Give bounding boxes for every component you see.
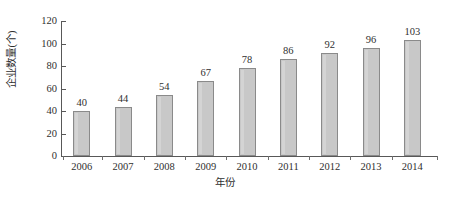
y-axis-tick-label: 60 xyxy=(47,82,58,95)
x-axis-tick-label: 2009 xyxy=(195,160,216,173)
bar-value-label: 40 xyxy=(76,97,87,109)
bar-chart: 企业数量(个) 020406080100120 4044546778869296… xyxy=(0,0,449,199)
bar xyxy=(115,107,132,157)
y-axis-tick-mark xyxy=(61,44,66,45)
y-axis-tick: 80 xyxy=(61,66,66,67)
plot-area: 020406080100120 4044546778869296103 xyxy=(61,21,433,156)
bar-highlight xyxy=(199,83,202,154)
x-axis-tick-label: 2012 xyxy=(319,160,340,173)
x-axis-tick-mark xyxy=(144,156,145,160)
y-axis-tick-mark xyxy=(61,134,66,135)
x-axis-end-tick xyxy=(63,156,64,160)
y-axis-tick-mark xyxy=(61,111,66,112)
y-axis-tick-label: 20 xyxy=(47,127,58,140)
x-axis-end-tick xyxy=(437,156,438,160)
y-axis-tick: 60 xyxy=(61,89,66,90)
x-axis-tick-mark xyxy=(226,156,227,160)
y-axis-tick-label: 40 xyxy=(47,104,58,117)
y-axis-tick: 120 xyxy=(61,21,66,22)
bar-value-label: 86 xyxy=(283,45,294,57)
bar-value-label: 78 xyxy=(242,54,253,66)
bar-group: 54 xyxy=(156,21,173,156)
x-axis-tick-mark xyxy=(268,156,269,160)
y-axis-tick-label: 80 xyxy=(47,59,58,72)
bar xyxy=(404,40,421,156)
y-axis-tick: 100 xyxy=(61,44,66,45)
bar-highlight xyxy=(365,50,368,154)
y-axis-tick-label: 120 xyxy=(41,14,57,27)
bar-highlight xyxy=(117,109,120,155)
bar xyxy=(156,95,173,156)
x-axis-tick-label: 2014 xyxy=(402,160,423,173)
bar xyxy=(239,68,256,156)
x-axis-line xyxy=(61,156,437,157)
x-axis-tick-mark xyxy=(350,156,351,160)
bar-group: 96 xyxy=(363,21,380,156)
x-axis-tick-label: 2008 xyxy=(154,160,175,173)
y-axis-tick-mark xyxy=(61,21,66,22)
bar-value-label: 103 xyxy=(404,26,420,38)
bar-highlight xyxy=(241,70,244,154)
x-axis-tick-label: 2010 xyxy=(237,160,258,173)
bar-highlight xyxy=(406,42,409,154)
x-axis-tick-label: 2013 xyxy=(361,160,382,173)
bar-group: 92 xyxy=(321,21,338,156)
x-axis-tick-label: 2007 xyxy=(113,160,134,173)
bar xyxy=(363,48,380,156)
y-axis-tick-mark xyxy=(61,66,66,67)
bar-value-label: 92 xyxy=(324,39,335,51)
bar-highlight xyxy=(282,61,285,154)
bar-group: 44 xyxy=(115,21,132,156)
y-axis-tick: 40 xyxy=(61,111,66,112)
x-axis-tick-mark xyxy=(309,156,310,160)
x-axis-tick-mark xyxy=(185,156,186,160)
bar-group: 86 xyxy=(280,21,297,156)
bar xyxy=(197,81,214,156)
bar-highlight xyxy=(323,55,326,155)
x-axis-title: 年份 xyxy=(0,176,449,189)
bar-value-label: 67 xyxy=(200,67,211,79)
x-axis-tick-label: 2006 xyxy=(71,160,92,173)
bar xyxy=(280,59,297,156)
bar xyxy=(321,53,338,157)
y-axis-title: 企业数量(个) xyxy=(5,9,19,109)
y-axis-tick-label: 100 xyxy=(41,37,57,50)
bar-value-label: 54 xyxy=(159,81,170,93)
bar-value-label: 44 xyxy=(118,93,129,105)
y-axis-tick-mark xyxy=(61,89,66,90)
y-axis-tick: 20 xyxy=(61,134,66,135)
bar-group: 67 xyxy=(197,21,214,156)
bar-highlight xyxy=(158,97,161,154)
x-axis-tick-mark xyxy=(102,156,103,160)
bar-group: 78 xyxy=(239,21,256,156)
bar xyxy=(73,111,90,156)
x-axis-tick-mark xyxy=(392,156,393,160)
bar-group: 40 xyxy=(73,21,90,156)
y-axis-tick-label: 0 xyxy=(52,149,57,162)
bar-group: 103 xyxy=(404,21,421,156)
bar-highlight xyxy=(75,113,78,154)
x-axis-tick-label: 2011 xyxy=(278,160,299,173)
bar-value-label: 96 xyxy=(366,34,377,46)
